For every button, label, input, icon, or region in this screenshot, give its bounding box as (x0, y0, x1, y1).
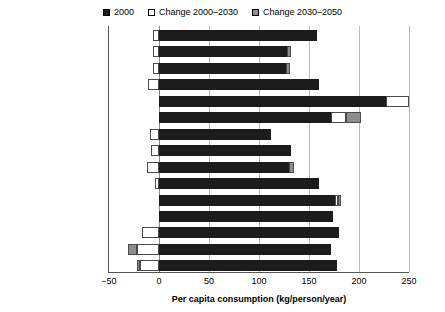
bar-row (109, 145, 409, 156)
bar-row (109, 46, 409, 57)
segment-2000 (159, 162, 289, 173)
bar-row (109, 129, 409, 140)
bar-row (109, 244, 409, 255)
gridline-250 (409, 26, 410, 272)
legend-item-change-2000-2030: Change 2000–2030 (148, 7, 238, 17)
bar-row (109, 96, 409, 107)
segment-change-2000-2030 (331, 112, 346, 123)
segment-2000 (159, 227, 339, 238)
segment-2000 (159, 129, 271, 140)
segment-change-2000-2030 (151, 145, 159, 156)
x-tick-label: 250 (389, 276, 429, 286)
segment-change-2000-2030 (386, 96, 409, 107)
segment-2000 (159, 211, 333, 222)
legend-label-change-2030-2050: Change 2030–2050 (263, 7, 342, 17)
segment-2000 (159, 178, 319, 189)
segment-2000 (159, 46, 287, 57)
segment-2000 (159, 112, 331, 123)
segment-2000 (159, 79, 319, 90)
chart-legend: 2000 Change 2000–2030 Change 2030–2050 (0, 7, 445, 17)
segment-2000 (159, 96, 386, 107)
x-tick-label: 200 (339, 276, 379, 286)
bar-row (109, 195, 409, 206)
segment-2000 (159, 30, 317, 41)
x-tick-label: −50 (89, 276, 129, 286)
bar-row (109, 63, 409, 74)
segment-2000 (159, 145, 291, 156)
bar-row (109, 178, 409, 189)
segment-change-2000-2030 (148, 79, 159, 90)
bar-row (109, 211, 409, 222)
per-capita-consumption-chart: 2000 Change 2000–2030 Change 2030–2050 W… (0, 0, 445, 312)
segment-change-2030-2050 (289, 162, 294, 173)
bar-row (109, 30, 409, 41)
segment-change-2030-2050 (128, 244, 137, 255)
segment-2000 (159, 260, 337, 271)
bar-row (109, 112, 409, 123)
legend-item-2000: 2000 (103, 7, 134, 17)
segment-change-2000-2030 (150, 129, 159, 140)
plot-area: WorldUnited StatesHigh IncomeDevelopingM… (108, 26, 409, 273)
gray-swatch-icon (252, 9, 259, 16)
segment-2000 (159, 63, 286, 74)
bar-row (109, 162, 409, 173)
x-tick-label: 150 (289, 276, 329, 286)
x-tick-label: 100 (239, 276, 279, 286)
bar-row (109, 260, 409, 271)
segment-change-2000-2030 (147, 162, 159, 173)
segment-change-2030-2050 (287, 46, 291, 57)
legend-item-change-2030-2050: Change 2030–2050 (252, 7, 342, 17)
x-tick-label: 0 (139, 276, 179, 286)
segment-change-2000-2030 (140, 260, 159, 271)
segment-change-2030-2050 (286, 63, 290, 74)
segment-change-2000-2030 (142, 227, 159, 238)
white-swatch-icon (148, 9, 155, 16)
bar-row (109, 227, 409, 238)
legend-label-2000: 2000 (114, 7, 134, 17)
segment-change-2030-2050 (338, 195, 341, 206)
segment-change-2030-2050 (346, 112, 361, 123)
segment-change-2030-2050 (137, 260, 140, 271)
bar-row (109, 79, 409, 90)
x-tick-label: 50 (189, 276, 229, 286)
legend-label-change-2000-2030: Change 2000–2030 (159, 7, 238, 17)
black-swatch-icon (103, 9, 110, 16)
segment-2000 (159, 244, 331, 255)
segment-change-2000-2030 (137, 244, 159, 255)
x-axis-title: Per capita consumption (kg/person/year) (109, 294, 409, 304)
segment-2000 (159, 195, 335, 206)
